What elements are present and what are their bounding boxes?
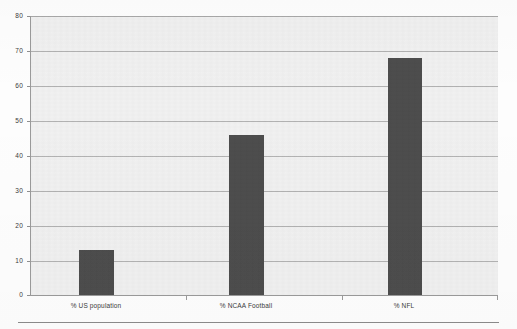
- plot-area: [30, 16, 498, 296]
- y-axis-tick-label: 30: [1, 188, 23, 195]
- x-axis-tick-mark: [497, 296, 498, 300]
- bar-chart-figure: 80 70 60 50 40 30 20 10 0 % US populatio…: [0, 0, 517, 329]
- bottom-horizontal-rule: [18, 322, 499, 323]
- gridline-60: [31, 86, 498, 87]
- bar-ncaa-football: [229, 135, 264, 295]
- y-axis-tick-label: 20: [1, 223, 23, 230]
- x-axis-label-ncaa-football: % NCAA Football: [196, 303, 296, 310]
- x-axis-tick-mark: [186, 296, 187, 300]
- gridline-80: [31, 16, 498, 17]
- y-axis-tick-label: 70: [1, 48, 23, 55]
- x-axis-tick-mark: [342, 296, 343, 300]
- gridline-40: [31, 156, 498, 157]
- gridline-20: [31, 226, 498, 227]
- y-axis-tick-label: 80: [1, 13, 23, 20]
- bar-nfl: [388, 58, 422, 295]
- x-axis-label-us-population: % US population: [46, 303, 146, 310]
- x-axis-label-nfl: % NFL: [354, 303, 454, 310]
- y-axis-tick-label: 40: [1, 153, 23, 160]
- gridline-30: [31, 191, 498, 192]
- y-axis-tick-label: 0: [1, 292, 23, 299]
- y-axis-tick-label: 10: [1, 258, 23, 265]
- y-axis-tick-label: 50: [1, 118, 23, 125]
- gridline-70: [31, 51, 498, 52]
- y-axis-tick-label: 60: [1, 83, 23, 90]
- gridline-50: [31, 121, 498, 122]
- bar-us-population: [79, 250, 114, 295]
